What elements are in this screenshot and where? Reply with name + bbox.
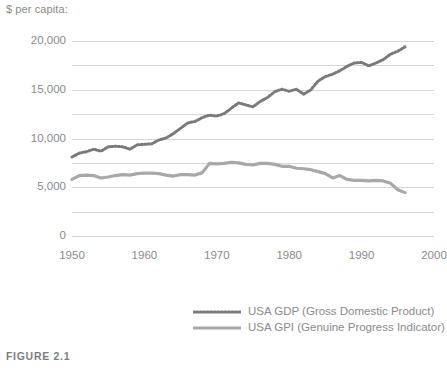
x-tick-label: 1970 [204, 250, 230, 262]
y-axis-unit-label: $ per capita: [6, 3, 68, 15]
legend-label: USA GDP (Gross Domestic Product) [248, 306, 434, 318]
plot-area [0, 20, 442, 248]
gridlines [72, 42, 434, 237]
legend-item[interactable]: USA GDP (Gross Domestic Product) [193, 304, 442, 320]
legend-item[interactable]: USA GPI (Genuine Progress Indicator) [193, 320, 442, 336]
x-tick-label: 1960 [132, 250, 158, 262]
x-tick-label: 2000 [421, 250, 447, 262]
legend-label: USA GPI (Genuine Progress Indicator) [248, 322, 445, 334]
chart-svg [0, 20, 442, 248]
x-tick-label: 1990 [349, 250, 375, 262]
series-line-gdp [72, 47, 405, 157]
figure-caption: FIGURE 2.1 [6, 350, 70, 362]
x-tick-label: 1950 [59, 250, 85, 262]
data-series [72, 47, 405, 193]
chart-legend: USA GDP (Gross Domestic Product)USA GPI … [0, 304, 442, 336]
x-tick-label: 1980 [276, 250, 302, 262]
solid-line-swatch [193, 323, 241, 333]
x-axis-tick-labels: 195019601970198019902000 [0, 250, 442, 268]
dotted-line-swatch [193, 307, 241, 317]
series-line-gpi [72, 162, 405, 192]
